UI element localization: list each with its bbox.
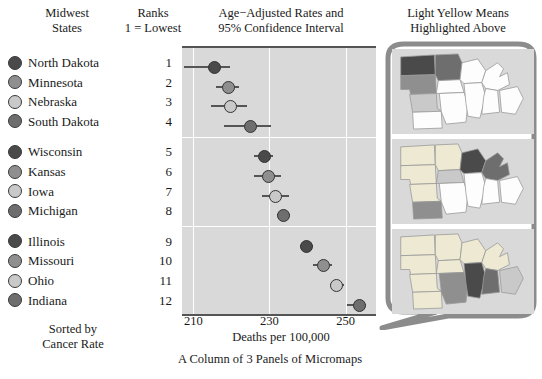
state-shade-dot-icon: [8, 114, 22, 128]
micromap-state-SD: [401, 75, 437, 95]
micromap-state-SD: [401, 165, 437, 185]
micromap-panel-3: [392, 229, 534, 314]
micromap-state-OH: [500, 177, 524, 205]
state-name-label: Wisconsin: [28, 145, 82, 158]
state-name-label: Nebraska: [28, 95, 77, 108]
header-rates-line2: 95% Confidence Interval: [186, 21, 376, 36]
data-point[interactable]: [262, 170, 275, 183]
state-shade-dot-icon: [8, 145, 22, 159]
state-name-label: North Dakota: [28, 56, 99, 69]
micromap-state-MN: [435, 234, 462, 261]
state-rank-value: 4: [130, 115, 172, 128]
state-row[interactable]: Kansas: [8, 162, 66, 181]
data-point[interactable]: [300, 240, 313, 253]
x-axis-tick-label: 210: [173, 314, 213, 329]
micromap-state-ND: [401, 235, 436, 256]
micromap-figure: Midwest States Ranks 1 = Lowest Age−Adju…: [0, 0, 542, 379]
micromap-state-MN: [435, 144, 462, 171]
state-name-label: Illinois: [28, 235, 65, 248]
micromap-state-OH: [500, 87, 524, 115]
data-point[interactable]: [208, 61, 221, 74]
column-header-ranks: Ranks 1 = Lowest: [118, 6, 188, 36]
data-point[interactable]: [353, 299, 366, 312]
x-axis-tick-label: 230: [249, 314, 289, 329]
micromap-state-MO: [439, 92, 468, 124]
state-shade-dot-icon: [8, 95, 22, 109]
micromap-state-WI: [460, 59, 486, 84]
micromap-svg: [392, 139, 534, 224]
state-rank-value: 1: [130, 56, 172, 69]
column-header-rates: Age−Adjusted Rates and 95% Confidence In…: [186, 6, 376, 36]
micromap-state-OH: [500, 267, 524, 295]
data-point[interactable]: [317, 259, 330, 272]
column-header-micromaps: Light Yellow Means Highlighted Above: [378, 6, 538, 36]
header-maps-line2: Highlighted Above: [378, 21, 538, 36]
state-name-label: South Dakota: [28, 115, 99, 128]
state-name-label: Michigan: [28, 204, 78, 217]
state-row[interactable]: Michigan: [8, 201, 78, 220]
state-shade-dot-icon: [8, 234, 22, 248]
data-point[interactable]: [222, 81, 235, 94]
state-rank-value: 7: [130, 185, 172, 198]
panel-separator: [182, 226, 376, 227]
micromap-state-MN: [435, 54, 462, 81]
micromap-state-MO: [439, 182, 468, 214]
sorted-note: Sorted by Cancer Rate: [8, 322, 138, 352]
state-rank-value: 5: [130, 145, 172, 158]
header-ranks-line1: Ranks: [118, 6, 188, 21]
state-name-label: Ohio: [28, 274, 54, 287]
panel-separator: [182, 137, 376, 138]
data-point[interactable]: [277, 209, 290, 222]
state-row[interactable]: Iowa: [8, 182, 54, 201]
state-shade-dot-icon: [8, 204, 22, 218]
micromap-state-NE: [410, 93, 442, 112]
micromap-panel-1: [392, 49, 534, 134]
sorted-note-line1: Sorted by: [8, 322, 138, 337]
data-point[interactable]: [330, 279, 343, 292]
state-shade-dot-icon: [8, 165, 22, 179]
gridline: [193, 48, 194, 314]
state-shade-dot-icon: [8, 293, 22, 307]
data-point[interactable]: [269, 190, 282, 203]
micromap-state-KS: [413, 111, 443, 129]
header-ranks-line2: 1 = Lowest: [118, 21, 188, 36]
state-rank-value: 10: [130, 254, 172, 267]
state-rank-value: 6: [130, 165, 172, 178]
state-row[interactable]: Nebraska: [8, 92, 77, 111]
micromap-panel-2: [392, 139, 534, 224]
header-rates-line1: Age−Adjusted Rates and: [186, 6, 376, 21]
data-point[interactable]: [224, 100, 237, 113]
micromap-state-IA: [436, 170, 464, 184]
micromap-state-KS: [413, 201, 443, 219]
state-name-label: Minnesota: [28, 76, 83, 89]
dot-plot: [182, 46, 376, 316]
state-row[interactable]: South Dakota: [8, 112, 99, 131]
header-states-line1: Midwest: [8, 6, 126, 21]
state-name-label: Indiana: [28, 294, 67, 307]
state-row[interactable]: North Dakota: [8, 53, 99, 72]
micromap-state-SD: [401, 255, 437, 275]
micromap-state-MI: [482, 153, 510, 181]
micromap-state-WI: [460, 149, 486, 174]
sorted-note-line2: Cancer Rate: [8, 337, 138, 352]
state-rank-value: 11: [130, 274, 172, 287]
micromap-state-MI: [482, 63, 510, 91]
micromap-state-WI: [460, 239, 486, 264]
micromap-state-IA: [436, 260, 464, 274]
state-row[interactable]: Indiana: [8, 291, 67, 310]
state-name-label: Kansas: [28, 165, 66, 178]
state-row[interactable]: Ohio: [8, 271, 54, 290]
state-row[interactable]: Wisconsin: [8, 142, 82, 161]
state-shade-dot-icon: [8, 254, 22, 268]
state-shade-dot-icon: [8, 184, 22, 198]
state-row[interactable]: Illinois: [8, 232, 65, 251]
state-shade-dot-icon: [8, 75, 22, 89]
state-row[interactable]: Minnesota: [8, 73, 83, 92]
micromap-state-MI: [482, 243, 510, 271]
data-point[interactable]: [244, 120, 257, 133]
state-rank-value: 9: [130, 235, 172, 248]
micromap-state-NE: [410, 273, 442, 292]
state-rank-value: 3: [130, 95, 172, 108]
state-row[interactable]: Missouri: [8, 251, 74, 270]
x-axis-title: Deaths per 100,000: [186, 330, 376, 345]
